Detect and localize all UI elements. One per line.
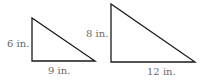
large-triangle-horizontal-label: 12 in. <box>147 67 176 77</box>
small-triangle-horizontal-label: 9 in. <box>48 66 70 76</box>
large-triangle <box>111 4 195 62</box>
large-triangle-vertical-label: 8 in. <box>86 29 108 39</box>
small-triangle-vertical-label: 6 in. <box>7 39 29 49</box>
small-triangle <box>32 18 95 61</box>
